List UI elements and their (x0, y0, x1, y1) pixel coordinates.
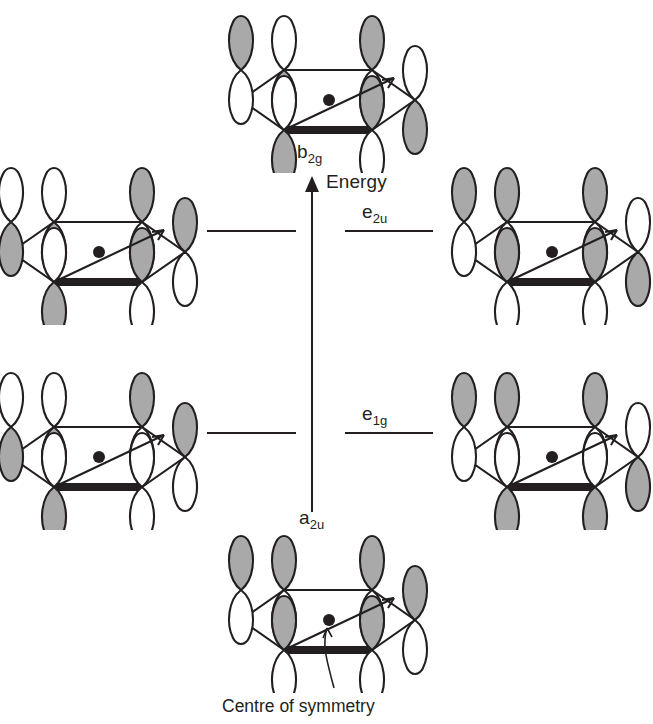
level-lines (207, 231, 433, 433)
centre-of-symmetry-caption: Centre of symmetry (222, 696, 375, 717)
orbital-a2u-bottom (222, 528, 437, 693)
orbital-e2u-left (0, 160, 207, 325)
axis-label-energy: Energy (326, 172, 387, 191)
level-label-a2u: a2u (299, 508, 324, 531)
level-label-e1g: e1g (362, 404, 387, 427)
energy-text: Energy (326, 171, 387, 192)
centre-of-symmetry-leader (323, 628, 334, 688)
orbital-e1g-left (0, 365, 207, 530)
orbital-e2u-right (445, 160, 653, 325)
level-label-e2u: e2u (362, 202, 387, 225)
level-label-b2g: b2g (297, 142, 322, 165)
mo-energy-diagram: Energy b2g e2u e1g a2u Centre of symmetr… (0, 0, 653, 724)
orbital-b2g-top (222, 8, 437, 173)
orbital-e1g-right (445, 365, 653, 530)
energy-arrow (305, 176, 319, 512)
